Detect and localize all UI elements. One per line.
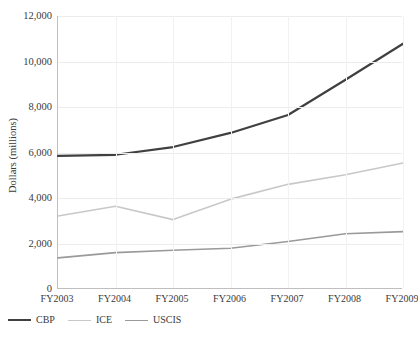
legend-swatch-icon	[8, 319, 31, 321]
y-axis-tick-label: 10,000	[0, 57, 52, 67]
gridline-vertical	[173, 16, 174, 288]
legend-item-cbp[interactable]: CBP	[8, 315, 55, 325]
legend-swatch-icon	[125, 320, 148, 321]
x-axis-tick-label: FY2009	[386, 293, 418, 305]
x-axis-tick-label: FY2006	[213, 293, 246, 305]
y-axis-tick-label: 2,000	[0, 239, 52, 249]
x-axis-tick-label: FY2005	[156, 293, 189, 305]
chart-legend: CBPICEUSCIS	[8, 315, 181, 325]
legend-label: USCIS	[153, 315, 181, 325]
legend-swatch-icon	[68, 320, 91, 321]
y-axis-title: Dollars (millions)	[7, 91, 18, 221]
x-axis-tick-label: FY2003	[41, 293, 74, 305]
gridline-vertical	[403, 16, 404, 288]
y-axis-tick-label: 12,000	[0, 11, 52, 21]
gridline-vertical	[231, 16, 232, 288]
legend-item-uscis[interactable]: USCIS	[125, 315, 181, 325]
x-axis-tick-label: FY2004	[98, 293, 131, 305]
legend-item-ice[interactable]: ICE	[68, 315, 112, 325]
plot-area	[57, 16, 402, 289]
legend-label: CBP	[36, 315, 55, 325]
x-axis-tick-label: FY2007	[271, 293, 304, 305]
gridline-vertical	[346, 16, 347, 288]
x-axis-tick-labels: FY2003FY2004FY2005FY2006FY2007FY2008FY20…	[57, 293, 402, 309]
gridline-vertical	[288, 16, 289, 288]
gridline-vertical	[116, 16, 117, 288]
legend-label: ICE	[96, 315, 112, 325]
x-axis-tick-label: FY2008	[328, 293, 361, 305]
